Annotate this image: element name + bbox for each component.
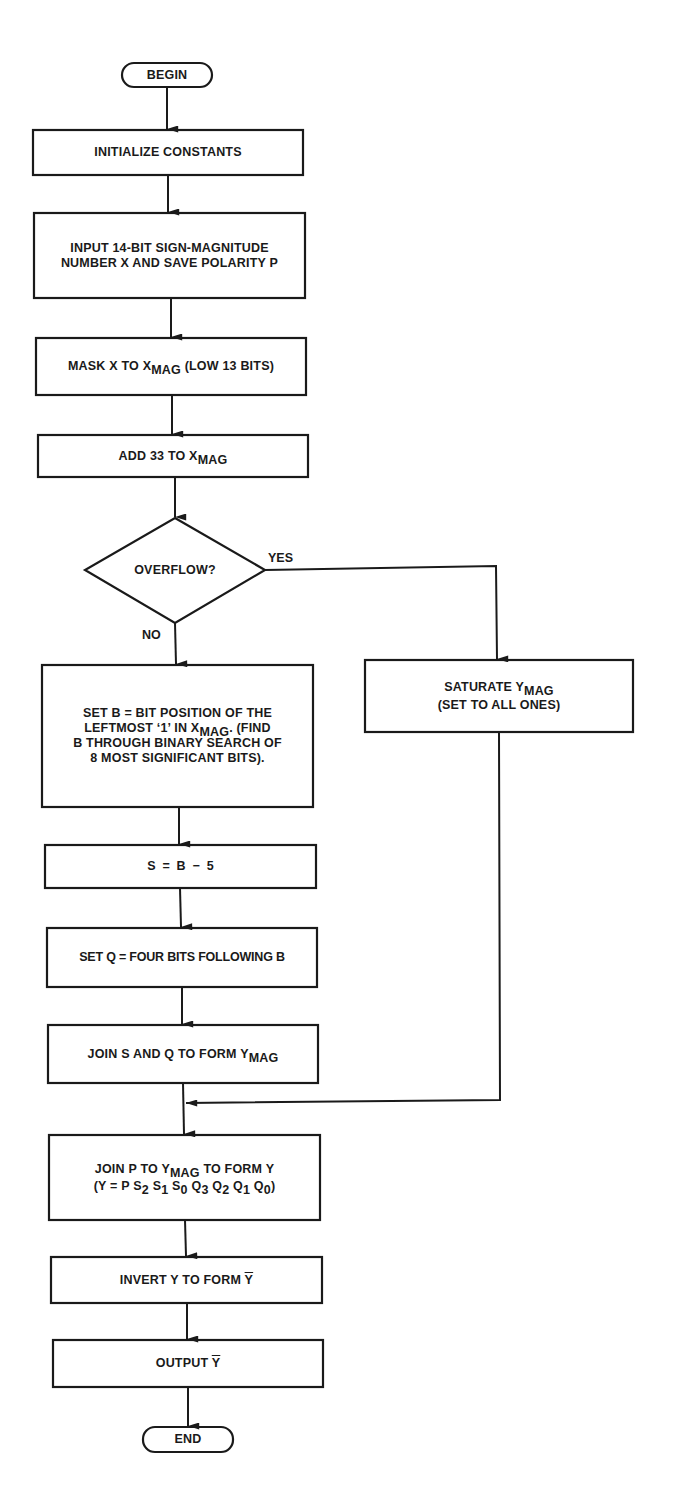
init-label: INITIALIZE CONSTANTS xyxy=(94,145,242,160)
arrow-joinp-invert xyxy=(185,1220,186,1256)
begin-terminal: BEGIN xyxy=(122,63,212,87)
yes-branch-label: YES xyxy=(268,551,293,565)
setb-label-line2-suffix: . (FIND xyxy=(229,721,271,735)
saturate-label-line2: (SET TO ALL ONES) xyxy=(438,698,561,713)
setb-step: SET B = BIT POSITION OF THE LEFTMOST ‘1’… xyxy=(42,665,313,807)
term-s2-sub: 2 xyxy=(142,1183,149,1197)
mask-label-suffix: (LOW 13 BITS) xyxy=(181,359,274,373)
setb-label-line1: SET B = BIT POSITION OF THE xyxy=(83,706,272,721)
joinsq-step: JOIN S AND Q TO FORM YMAG xyxy=(48,1025,318,1083)
term-q3-base: Q xyxy=(191,1179,201,1193)
setq-label: SET Q = FOUR BITS FOLLOWING B xyxy=(79,950,285,965)
term-q2-base: Q xyxy=(212,1179,222,1193)
output-label-prefix: OUTPUT xyxy=(156,1356,212,1370)
setb-label-line2: LEFTMOST ‘1’ IN XMAG. (FIND xyxy=(84,721,271,736)
arrow-decision-no xyxy=(175,623,176,664)
mask-label-prefix: MASK X TO X xyxy=(68,359,151,373)
decision-label: OVERFLOW? xyxy=(134,563,216,578)
saturate-label-sub: MAG xyxy=(524,684,554,698)
s-eq-step: S = B − 5 xyxy=(45,845,316,888)
arrow-joinsq-joinp xyxy=(183,1083,184,1134)
input-label-line2: NUMBER X AND SAVE POLARITY P xyxy=(61,256,278,271)
input-step: INPUT 14-BIT SIGN-MAGNITUDE NUMBER X AND… xyxy=(34,213,305,298)
invert-label-ybar: Y xyxy=(245,1273,254,1287)
term-q0-sub: 0 xyxy=(264,1183,271,1197)
joinp-label-line1-prefix: JOIN P TO Y xyxy=(95,1162,170,1176)
term-q0-base: Q xyxy=(254,1179,264,1193)
term-q3-sub: 3 xyxy=(201,1183,208,1197)
input-label-line1: INPUT 14-BIT SIGN-MAGNITUDE xyxy=(70,241,268,256)
setb-label-line4: 8 MOST SIGNIFICANT BITS). xyxy=(90,751,264,766)
output-label: OUTPUT Y xyxy=(156,1356,221,1371)
joinp-label-line1-sub: MAG xyxy=(170,1166,200,1180)
saturate-label-prefix: SATURATE Y xyxy=(444,680,524,694)
mask-step: MASK X TO XMAG (LOW 13 BITS) xyxy=(36,338,306,395)
term-q1-base: Q xyxy=(233,1179,243,1193)
saturate-label-line1: SATURATE YMAG xyxy=(444,680,554,695)
invert-label-prefix: INVERT Y TO FORM xyxy=(120,1273,245,1287)
arrow-seq-setq xyxy=(180,888,181,927)
joinp-step: JOIN P TO YMAG TO FORM Y (Y = P S2 S1 S0… xyxy=(49,1135,320,1220)
saturate-step: SATURATE YMAG (SET TO ALL ONES) xyxy=(365,660,633,732)
invert-step: INVERT Y TO FORM Y xyxy=(51,1257,322,1303)
s-eq-label: S = B − 5 xyxy=(147,859,214,874)
joinp-label-line2: (Y = P S2 S1 S0 Q3 Q2 Q1 Q0) xyxy=(94,1179,276,1194)
joinp-label-line1: JOIN P TO YMAG TO FORM Y xyxy=(95,1162,274,1177)
term-q1-sub: 1 xyxy=(243,1183,250,1197)
setb-label-line3: B THROUGH BINARY SEARCH OF xyxy=(73,736,282,751)
overflow-decision: OVERFLOW? xyxy=(95,555,255,585)
joinp-line2-open: (Y = P xyxy=(94,1179,134,1193)
joinsq-label-sub: MAG xyxy=(249,1051,279,1065)
end-terminal: END xyxy=(143,1427,233,1452)
invert-label: INVERT Y TO FORM Y xyxy=(120,1273,253,1288)
term-q2-sub: 2 xyxy=(222,1183,229,1197)
output-step: OUTPUT Y xyxy=(53,1340,323,1387)
init-step: INITIALIZE CONSTANTS xyxy=(33,130,303,175)
end-label: END xyxy=(175,1432,202,1447)
mask-label: MASK X TO XMAG (LOW 13 BITS) xyxy=(68,359,274,374)
joinsq-label-prefix: JOIN S AND Q TO FORM Y xyxy=(88,1047,249,1061)
term-s0-sub: 0 xyxy=(181,1183,188,1197)
add-step: ADD 33 TO XMAG xyxy=(38,435,308,477)
no-branch-label: NO xyxy=(142,628,161,642)
add-label-sub: MAG xyxy=(198,453,228,467)
joinp-line2-close: ) xyxy=(271,1179,275,1193)
arrow-decision-yes xyxy=(265,566,497,659)
setb-label-line2-prefix: LEFTMOST ‘1’ IN X xyxy=(84,721,199,735)
term-s0-base: S xyxy=(172,1179,181,1193)
joinp-label-line1-suffix: TO FORM Y xyxy=(200,1162,274,1176)
joinsq-label: JOIN S AND Q TO FORM YMAG xyxy=(88,1047,279,1062)
add-label-prefix: ADD 33 TO X xyxy=(119,449,198,463)
setq-step: SET Q = FOUR BITS FOLLOWING B xyxy=(47,928,317,987)
begin-label: BEGIN xyxy=(147,68,188,83)
term-s2-base: S xyxy=(133,1179,142,1193)
term-s1-base: S xyxy=(153,1179,162,1193)
mask-label-sub: MAG xyxy=(151,363,181,377)
add-label: ADD 33 TO XMAG xyxy=(119,449,228,464)
term-s1-sub: 1 xyxy=(161,1183,168,1197)
output-label-ybar: Y xyxy=(212,1356,221,1370)
